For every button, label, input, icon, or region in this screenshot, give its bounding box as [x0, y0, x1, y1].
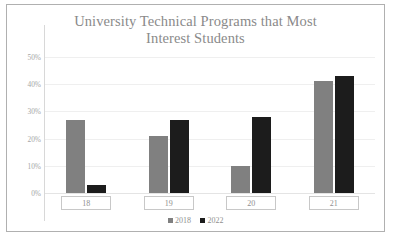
y-tick-label: 50%: [11, 53, 41, 62]
x-label-20: 20: [226, 196, 276, 210]
bar-2022-20: [252, 117, 271, 193]
bar-2018-20: [231, 166, 250, 193]
legend-item-2018[interactable]: 2018: [168, 216, 192, 225]
legend-swatch-icon: [168, 218, 173, 223]
gridline-0%: [45, 193, 375, 194]
x-label-21: 21: [309, 196, 359, 210]
bar-2022-18: [87, 185, 106, 193]
x-label-19: 19: [144, 196, 194, 210]
chart-legend: 20182022: [7, 216, 384, 225]
y-tick-label: 30%: [11, 107, 41, 116]
legend-label: 2022: [208, 216, 224, 225]
legend-item-2022[interactable]: 2022: [200, 216, 224, 225]
y-tick-label: 10%: [11, 161, 41, 170]
y-tick-label: 20%: [11, 134, 41, 143]
plot-area: [45, 57, 375, 193]
bar-2018-21: [314, 81, 333, 193]
y-axis-tick-labels: 0%10%20%30%40%50%: [9, 57, 41, 193]
legend-swatch-icon: [200, 218, 205, 223]
y-tick-label: 40%: [11, 80, 41, 89]
chart-title-line-1: University Technical Programs that Most: [7, 13, 384, 30]
y-tick-label: 0%: [11, 189, 41, 198]
x-axis-category-labels: 18192021: [45, 196, 375, 212]
x-label-18: 18: [61, 196, 111, 210]
bar-2018-18: [66, 120, 85, 193]
chart-frame: University Technical Programs that Most …: [6, 4, 385, 232]
bar-2022-19: [170, 120, 189, 193]
bar-2022-21: [335, 76, 354, 193]
legend-label: 2018: [175, 216, 191, 225]
chart-title-line-2: Interest Students: [7, 30, 384, 47]
chart-title: University Technical Programs that Most …: [7, 13, 384, 47]
bar-2018-19: [149, 136, 168, 193]
gridline-50%: [45, 57, 375, 58]
